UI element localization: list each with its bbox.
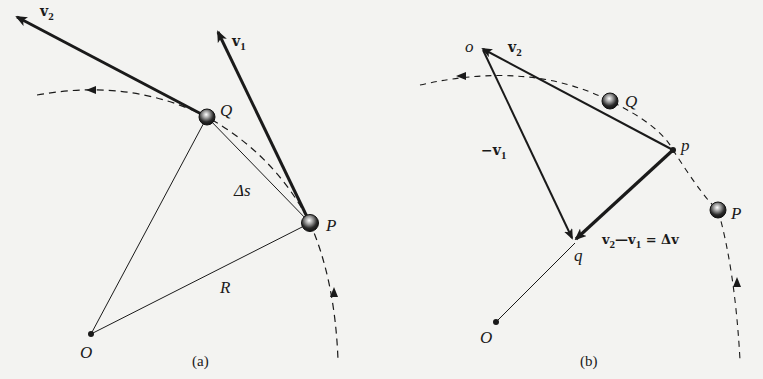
- path-direction-arrow-icon: [733, 277, 741, 287]
- label-delta-s: Δs: [233, 181, 251, 200]
- panel-a: v2 v1 Q Δs P R O (a): [17, 3, 338, 370]
- panel-b: o v2 Q p −v1 P v2—v1 = Δv q O (b): [420, 37, 741, 370]
- label-v2: v2: [39, 3, 54, 22]
- label-neg-v1: −v1: [481, 142, 506, 161]
- label-O: O: [480, 328, 492, 347]
- label-R: R: [219, 278, 231, 297]
- radius-OQ: [91, 117, 207, 334]
- caption-b: (b): [580, 353, 598, 370]
- vector-v2: [17, 17, 207, 117]
- label-v2: v2: [507, 39, 522, 58]
- label-Q: Q: [625, 92, 637, 111]
- ball-P: [302, 215, 319, 232]
- ball-P: [710, 202, 726, 218]
- label-O: O: [80, 343, 92, 362]
- origin-point: [88, 331, 94, 337]
- point-p: [670, 147, 676, 153]
- origin-point: [493, 319, 499, 325]
- chord-line: [207, 117, 310, 223]
- label-P: P: [730, 204, 741, 223]
- vector-delta-v: [576, 150, 673, 239]
- vector-v2: [483, 49, 673, 150]
- label-o: o: [465, 37, 474, 56]
- label-v1: v1: [231, 33, 246, 52]
- circular-path-dashed: [37, 90, 338, 360]
- ball-Q: [602, 93, 618, 109]
- caption-a: (a): [192, 353, 209, 370]
- radius-Oq: [496, 243, 575, 322]
- vector-v1: [218, 32, 310, 223]
- circular-motion-diagram: v2 v1 Q Δs P R O (a) o v2 Q p −v1 P: [0, 0, 763, 379]
- label-P: P: [325, 216, 336, 235]
- path-direction-arrow-icon: [86, 86, 96, 94]
- label-delta-v-equation: v2—v1 = Δv: [601, 232, 679, 250]
- radius-OP: [91, 223, 310, 334]
- label-p: p: [680, 136, 690, 155]
- ball-Q: [199, 109, 215, 125]
- circular-path-dashed: [420, 76, 740, 360]
- label-Q: Q: [220, 101, 232, 120]
- label-q: q: [574, 246, 583, 265]
